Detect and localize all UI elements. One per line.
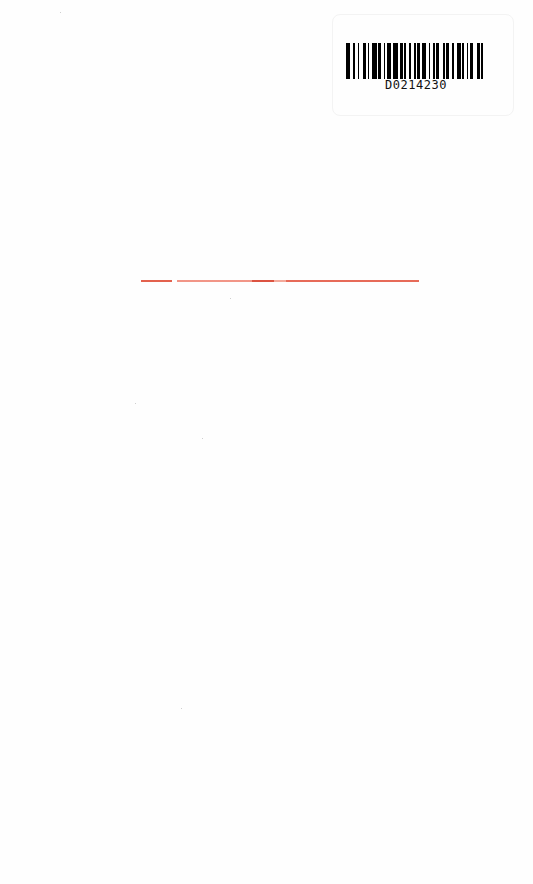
- scan-speck: [135, 403, 136, 404]
- scan-speck: [60, 12, 61, 13]
- barcode-gap: [483, 43, 486, 79]
- barcode: [346, 43, 486, 79]
- scan-speck: [181, 708, 182, 709]
- barcode-number: D0214230: [346, 78, 486, 92]
- red-horizontal-rule: [141, 280, 419, 282]
- scanned-page: D0214230: [0, 0, 533, 884]
- scan-speck: [230, 298, 231, 299]
- scan-speck: [202, 438, 203, 439]
- bleed-through-text: [278, 296, 408, 302]
